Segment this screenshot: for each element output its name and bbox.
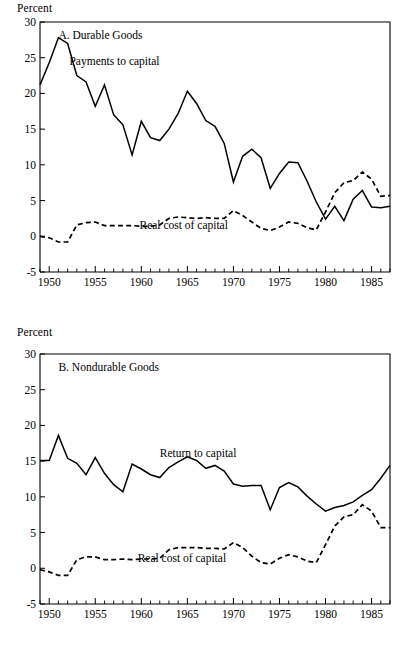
x-axis-tick-label: 1950 <box>38 608 61 620</box>
panel-title: B. Nondurable Goods <box>58 361 159 373</box>
series-line-real-cost-of-capital <box>40 172 390 242</box>
y-axis-tick-label: 10 <box>25 491 37 503</box>
series-label-real-cost-of-capital: Real cost of capital <box>139 219 227 232</box>
y-axis-tick-label: 0 <box>30 230 36 242</box>
x-axis-tick-label: 1985 <box>360 608 383 620</box>
y-axis-tick-label: 25 <box>25 52 37 64</box>
x-axis-tick-label: 1960 <box>130 608 153 620</box>
x-axis-tick-label: 1980 <box>314 276 337 288</box>
panel-a-ylabel: Percent <box>17 2 52 14</box>
series-label-real-cost-of-capital: Real cost of capital <box>138 552 226 565</box>
y-axis-tick-label: 20 <box>25 87 37 99</box>
y-axis-tick-label: 10 <box>25 159 37 171</box>
y-axis-tick-label: 15 <box>25 455 37 467</box>
x-axis-tick-label: 1975 <box>268 608 291 620</box>
panel-b-plot: -505101520253019501955196019651970197519… <box>0 318 408 652</box>
x-axis-tick-label: 1985 <box>360 276 383 288</box>
series-label-return-to-capital: Return to capital <box>160 447 237 460</box>
y-axis-tick-label: -5 <box>26 266 36 278</box>
figure: Percent -5051015202530195019551960196519… <box>0 0 408 652</box>
y-axis-tick-label: 20 <box>25 419 37 431</box>
x-axis-tick-label: 1960 <box>130 276 153 288</box>
x-axis-tick-label: 1970 <box>222 276 245 288</box>
x-axis-tick-label: 1955 <box>84 276 107 288</box>
panel-nondurable-goods: Percent -5051015202530195019551960196519… <box>0 318 408 652</box>
panel-a-plot: -505101520253019501955196019651970197519… <box>0 0 408 320</box>
y-axis-tick-label: 5 <box>30 195 36 207</box>
x-axis-tick-label: 1955 <box>84 608 107 620</box>
y-axis-tick-label: -5 <box>26 598 36 610</box>
x-axis-tick-label: 1970 <box>222 608 245 620</box>
y-axis-tick-label: 0 <box>30 562 36 574</box>
x-axis-tick-label: 1975 <box>268 276 291 288</box>
y-axis-tick-label: 5 <box>30 527 36 539</box>
plot-frame <box>40 354 390 604</box>
x-axis-tick-label: 1980 <box>314 608 337 620</box>
series-line-real-cost-of-capital <box>40 505 390 576</box>
y-axis-tick-label: 30 <box>25 16 37 28</box>
panel-title: A. Durable Goods <box>58 29 143 41</box>
x-axis-tick-label: 1950 <box>38 276 61 288</box>
series-label-payments-to-capital: Payments to capital <box>69 55 159 68</box>
y-axis-tick-label: 15 <box>25 123 37 135</box>
x-axis-tick-label: 1965 <box>176 608 199 620</box>
y-axis-tick-label: 25 <box>25 384 37 396</box>
panel-durable-goods: Percent -5051015202530195019551960196519… <box>0 0 408 320</box>
y-axis-tick-label: 30 <box>25 348 37 360</box>
panel-b-ylabel: Percent <box>17 326 52 338</box>
x-axis-tick-label: 1965 <box>176 276 199 288</box>
